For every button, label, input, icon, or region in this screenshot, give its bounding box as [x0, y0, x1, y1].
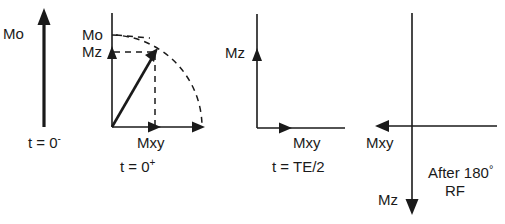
panel4-caption-line1: After 180° [428, 163, 493, 181]
spin-echo-diagram: Mo t = 0- Mo Mz Mxy t = 0+ Mz Mxy t = TE… [0, 0, 505, 224]
panel3-mz-arrowhead [252, 48, 262, 61]
panel-2-group [107, 13, 205, 133]
panel2-caption: t = 0+ [120, 157, 156, 175]
diagram-canvas: Mo t = 0- Mo Mz Mxy t = 0+ Mz Mxy t = TE… [0, 0, 505, 224]
panel3-mxy-label: Mxy [293, 134, 321, 151]
panel1-mo-label: Mo [3, 25, 24, 42]
panel2-mxy-label: Mxy [137, 134, 165, 151]
panel4-mxy-label: Mxy [366, 134, 394, 151]
panel4-caption-line2: RF [445, 182, 465, 199]
panel1-caption: t = 0- [28, 133, 61, 151]
panel1-mo-arrowhead [38, 8, 51, 25]
panel2-mz-label: Mz [82, 43, 102, 60]
panel-1-group [38, 8, 51, 127]
panel3-mxy-arrowhead [279, 123, 292, 134]
panel4-mz-label: Mz [378, 191, 398, 208]
panel-4-group [375, 13, 497, 215]
panel2-mo-tie-line [116, 35, 150, 38]
panel-3-group [252, 14, 345, 134]
panel4-mxy-arrowhead [375, 120, 389, 132]
panel4-mz-arrowhead [406, 199, 419, 215]
panel2-mo-label: Mo [82, 26, 103, 43]
panel2-axis-end-arrowhead [192, 122, 205, 133]
panel2-magnetization-vector-arrowhead [145, 48, 158, 62]
panel2-magnetization-vector-shaft [112, 58, 152, 127]
panel3-mz-label: Mz [225, 44, 245, 61]
panel3-caption: t = TE/2 [272, 158, 325, 175]
